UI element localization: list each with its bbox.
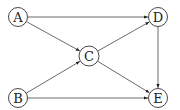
nodes-group: ABCDE [9, 8, 168, 108]
node-e: E [149, 89, 168, 108]
node-c: C [79, 46, 99, 66]
node-label: E [153, 91, 163, 106]
node-a: A [9, 8, 28, 27]
edge-c-to-e [98, 61, 150, 93]
node-d: D [149, 8, 168, 27]
edge-b-to-c [26, 61, 80, 93]
dag-diagram: ABCDE [0, 0, 180, 110]
edge-c-to-d [98, 22, 150, 51]
node-b: B [9, 89, 28, 108]
node-label: D [153, 10, 163, 25]
node-label: A [12, 10, 23, 25]
node-label: B [13, 91, 23, 106]
edge-a-to-c [26, 22, 79, 51]
node-label: C [84, 49, 94, 64]
